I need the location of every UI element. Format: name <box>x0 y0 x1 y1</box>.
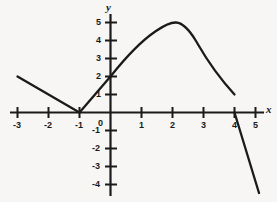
plot-canvas <box>0 0 277 202</box>
parabolic-arc <box>111 22 235 94</box>
x-tick-label-3: 3 <box>201 121 206 130</box>
y-tick-label-5: 5 <box>96 18 101 27</box>
y-tick-label--3: -3 <box>92 162 100 171</box>
x-tick-label-5: 5 <box>253 121 258 130</box>
y-tick-label-1: 1 <box>96 90 101 99</box>
x-axis-label: x <box>266 104 272 115</box>
y-axis-label: y <box>106 2 111 13</box>
y-tick-label--1: -1 <box>92 126 100 135</box>
y-tick-label-3: 3 <box>96 54 101 63</box>
x-tick-label--3: -3 <box>13 121 21 130</box>
x-tick-label-1: 1 <box>139 121 144 130</box>
y-tick-label-2: 2 <box>96 72 101 81</box>
function-graph: -3 -2 -1 1 2 3 4 5 0 5 4 3 2 1 -1 -2 -3 … <box>0 0 277 202</box>
y-tick-label-4: 4 <box>96 36 101 45</box>
y-tick-label--4: -4 <box>92 180 100 189</box>
x-tick-label--2: -2 <box>44 121 52 130</box>
x-tick-label--1: -1 <box>75 121 83 130</box>
y-tick-label--2: -2 <box>92 144 100 153</box>
x-tick-label-4: 4 <box>232 121 237 130</box>
x-tick-label-2: 2 <box>170 121 175 130</box>
